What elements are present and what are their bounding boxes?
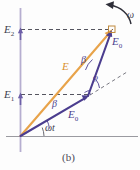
omega-t-angle-arc: [42, 128, 44, 137]
label-e0-lower: E0: [68, 109, 78, 123]
figure-caption: (b): [62, 151, 75, 163]
phasor-diagram-figure: E2 E1 ω ωt E E0 E0 β β φ (b): [0, 0, 140, 170]
label-e0-upper: E0: [112, 36, 122, 50]
label-e1: E1: [4, 89, 14, 103]
label-e-resultant: E: [62, 61, 69, 72]
label-omega-t: ωt: [45, 123, 55, 133]
component-vector-e0-second: [88, 30, 112, 96]
label-phi: φ: [93, 73, 98, 82]
resultant-vector-e: [21, 29, 113, 136]
diagram-canvas: [0, 0, 140, 170]
label-beta-upper: β: [81, 55, 86, 65]
label-e2: E2: [4, 24, 14, 38]
label-omega: ω: [127, 10, 134, 20]
label-beta-lower: β: [52, 99, 57, 109]
